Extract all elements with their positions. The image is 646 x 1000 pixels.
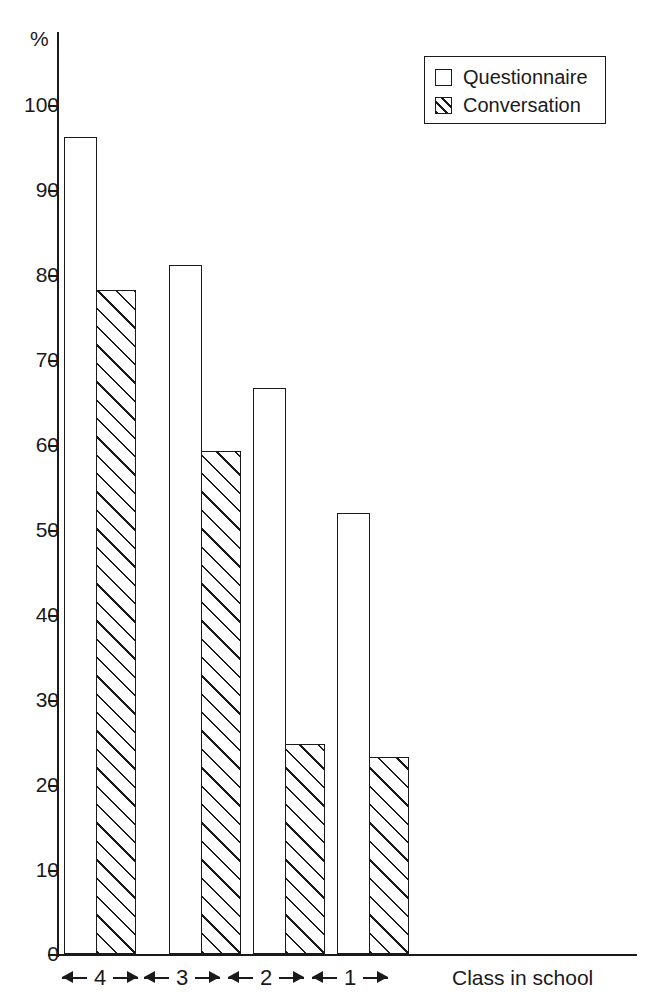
- y-tick-40: 40: [48, 615, 59, 617]
- y-tick-10: 10: [48, 870, 59, 872]
- bar-conversation-class-2: [285, 744, 325, 954]
- legend-entry-questionnaire: Questionnaire: [435, 64, 605, 90]
- y-axis-line: [57, 32, 59, 957]
- bar-conversation-class-4: [96, 290, 136, 954]
- hatched-square-icon: [435, 97, 452, 114]
- legend-label-conversation: Conversation: [463, 95, 581, 115]
- x-group-bracket-1: 1: [312, 963, 388, 993]
- bar-questionnaire-class-3: [169, 265, 202, 954]
- arrow-left-icon: [312, 971, 323, 983]
- bar-questionnaire-class-1: [337, 513, 370, 954]
- empty-square-icon: [435, 69, 452, 86]
- y-tick-20: 20: [48, 785, 59, 787]
- x-group-bracket-2: 2: [228, 963, 304, 993]
- arrow-right-icon: [209, 971, 220, 983]
- arrow-left-icon: [144, 971, 155, 983]
- bar-conversation-class-3: [201, 451, 241, 954]
- bar-questionnaire-class-4: [64, 137, 97, 954]
- y-tick-90: 90: [48, 190, 59, 192]
- bar-questionnaire-class-2: [253, 388, 286, 954]
- arrow-right-icon: [293, 971, 304, 983]
- arrow-right-icon: [127, 971, 138, 983]
- x-group-label-3: 3: [169, 963, 195, 993]
- y-tick-80: 80: [48, 275, 59, 277]
- x-axis-line: [57, 954, 637, 956]
- x-group-label-4: 4: [87, 963, 113, 993]
- legend-entry-conversation: Conversation: [435, 92, 605, 118]
- y-tick-70: 70: [48, 360, 59, 362]
- arrow-left-icon: [62, 971, 73, 983]
- bar-chart: % 100 90 80 70 60 50 40 30 20 10 0: [0, 0, 646, 1000]
- arrow-right-icon: [377, 971, 388, 983]
- chart-legend: Questionnaire Conversation: [424, 56, 606, 124]
- arrow-left-icon: [228, 971, 239, 983]
- y-tick-30: 30: [48, 700, 59, 702]
- x-axis-title: Class in school: [452, 963, 593, 993]
- legend-label-questionnaire: Questionnaire: [463, 67, 588, 87]
- y-tick-100: 100: [48, 105, 59, 107]
- x-group-label-2: 2: [253, 963, 279, 993]
- y-tick-60: 60: [48, 445, 59, 447]
- bar-conversation-class-1: [369, 757, 409, 954]
- x-group-label-1: 1: [337, 963, 363, 993]
- x-group-bracket-3: 3: [144, 963, 220, 993]
- x-group-bracket-4: 4: [62, 963, 138, 993]
- y-tick-50: 50: [48, 530, 59, 532]
- y-axis-unit-label: %: [30, 28, 49, 49]
- y-tick-0: 0: [48, 954, 59, 956]
